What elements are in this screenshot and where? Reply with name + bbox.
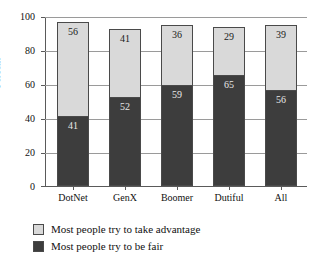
- y-tick-80: [41, 51, 45, 52]
- y-tick-label-100: 100: [20, 12, 35, 22]
- bar-dotnet-label-be-fair: 41: [58, 121, 88, 131]
- y-tick-20: [41, 153, 45, 154]
- bar-all-segment-take-advantage: 39: [266, 26, 296, 92]
- y-tick-label-20: 20: [25, 148, 35, 158]
- bar-dotnet-segment-take-advantage: 56: [58, 23, 88, 118]
- stacked-bar-chart: 100 80 60 40 20 0 Percent 56 41: [0, 0, 316, 262]
- y-tick-label-60: 60: [25, 80, 35, 90]
- y-tick-label-40: 40: [25, 114, 35, 124]
- bar-genx-segment-be-fair: 52: [110, 97, 140, 185]
- bar-dutiful: 29 65: [213, 27, 245, 186]
- x-tick-label-all: All: [275, 193, 288, 203]
- bar-boomer-label-take-advantage: 36: [162, 30, 192, 40]
- plot-area: 56 41 41 52 36 59 29: [45, 17, 307, 186]
- y-tick-60: [41, 85, 45, 86]
- bar-all: 39 56: [265, 25, 297, 186]
- x-tick-dutiful: [229, 186, 230, 190]
- y-tick-0: [41, 186, 45, 187]
- bar-boomer-label-be-fair: 59: [162, 90, 192, 100]
- y-tick-label-0: 0: [30, 182, 35, 192]
- x-tick-label-dotnet: DotNet: [58, 193, 87, 203]
- x-axis-line: [45, 186, 307, 187]
- bar-dotnet: 56 41: [57, 22, 89, 186]
- bar-dutiful-label-take-advantage: 29: [214, 32, 244, 42]
- legend-label-be-fair: Most people try to be fair: [51, 241, 163, 252]
- bar-genx: 41 52: [109, 29, 141, 186]
- legend-swatch-be-fair: [33, 241, 44, 252]
- bar-dutiful-label-be-fair: 65: [214, 80, 244, 90]
- x-tick-label-genx: GenX: [113, 193, 137, 203]
- legend-swatch-take-advantage: [33, 224, 44, 235]
- legend-item-be-fair: Most people try to be fair: [33, 238, 200, 255]
- bar-dutiful-segment-be-fair: 65: [214, 75, 244, 185]
- x-tick-label-boomer: Boomer: [161, 193, 193, 203]
- bar-all-label-take-advantage: 39: [266, 30, 296, 40]
- x-tick-genx: [125, 186, 126, 190]
- x-tick-label-dutiful: Dutiful: [215, 193, 244, 203]
- gridline-100: [45, 17, 307, 18]
- x-tick-all: [281, 186, 282, 190]
- bar-dotnet-label-take-advantage: 56: [58, 27, 88, 37]
- bar-dotnet-segment-be-fair: 41: [58, 116, 88, 185]
- y-tick-label-80: 80: [25, 46, 35, 56]
- bar-genx-label-take-advantage: 41: [110, 34, 140, 44]
- y-tick-100: [41, 17, 45, 18]
- y-axis-title: Percent: [0, 58, 2, 88]
- x-tick-dotnet: [73, 186, 74, 190]
- x-tick-boomer: [177, 186, 178, 190]
- bar-genx-label-be-fair: 52: [110, 102, 140, 112]
- bar-boomer: 36 59: [161, 25, 193, 186]
- bar-dutiful-segment-take-advantage: 29: [214, 28, 244, 77]
- bar-genx-segment-take-advantage: 41: [110, 30, 140, 99]
- bar-boomer-segment-take-advantage: 36: [162, 26, 192, 87]
- legend-item-take-advantage: Most people try to take advantage: [33, 221, 200, 238]
- y-axis-labels: 100 80 60 40 20 0: [0, 17, 41, 187]
- bar-boomer-segment-be-fair: 59: [162, 85, 192, 185]
- chart-legend: Most people try to take advantage Most p…: [33, 221, 200, 255]
- bar-all-segment-be-fair: 56: [266, 90, 296, 185]
- bar-all-label-be-fair: 56: [266, 95, 296, 105]
- y-tick-40: [41, 119, 45, 120]
- legend-label-take-advantage: Most people try to take advantage: [51, 224, 200, 235]
